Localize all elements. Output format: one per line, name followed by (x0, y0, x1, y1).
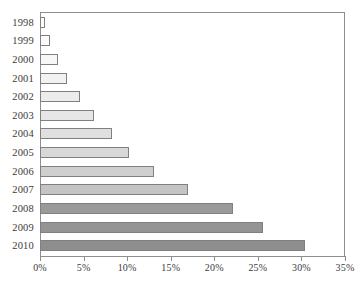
bar-1998 (40, 17, 45, 28)
x-axis-tick-label: 20% (205, 262, 224, 273)
y-axis-tick-label: 2000 (0, 50, 37, 69)
bar-row (40, 218, 345, 237)
y-axis-tick-label: 2009 (0, 218, 37, 237)
bar-2000 (40, 54, 58, 65)
y-axis-tick-label: 2004 (0, 125, 37, 144)
y-axis-tick-label: 2010 (0, 236, 37, 255)
tick-mark (84, 256, 85, 261)
bar-2003 (40, 110, 94, 121)
bar-row (40, 50, 345, 69)
y-axis-tick-label: 2001 (0, 69, 37, 88)
y-axis-tick-label: 2003 (0, 106, 37, 125)
x-axis-tick-label: 0% (33, 262, 47, 273)
x-axis-tick-label: 5% (77, 262, 91, 273)
tick-mark (127, 256, 128, 261)
tick-mark (345, 256, 346, 261)
bar-2010 (40, 240, 305, 251)
y-axis-tick-label: 1998 (0, 13, 37, 32)
bar-2002 (40, 91, 80, 102)
bar-row (40, 69, 345, 88)
x-axis-tick-label: 35% (336, 262, 355, 273)
bar-row (40, 32, 345, 51)
y-axis-tick-label: 1999 (0, 32, 37, 51)
bar-row (40, 106, 345, 125)
bar-row (40, 199, 345, 218)
bars-container (40, 13, 345, 255)
bar-2009 (40, 222, 263, 233)
y-axis-tick-label: 2005 (0, 143, 37, 162)
x-axis-tick-label: 15% (161, 262, 180, 273)
y-axis-category-labels: 1998199920002001200220032004200520062007… (0, 13, 37, 255)
tick-mark (301, 256, 302, 261)
bar-row (40, 87, 345, 106)
bar-2007 (40, 184, 188, 195)
x-axis-tick-label: 10% (118, 262, 137, 273)
tick-mark (258, 256, 259, 261)
tick-mark (171, 256, 172, 261)
bar-2008 (40, 203, 233, 214)
bar-row (40, 125, 345, 144)
y-axis-tick-label: 2002 (0, 87, 37, 106)
bar-2005 (40, 147, 129, 158)
bar-row (40, 236, 345, 255)
x-axis-tick-label: 30% (292, 262, 311, 273)
y-axis-tick-label: 2008 (0, 199, 37, 218)
y-axis-tick-label: 2007 (0, 180, 37, 199)
bar-1999 (40, 35, 50, 46)
bar-chart: 1998199920002001200220032004200520062007… (0, 0, 360, 291)
bar-2006 (40, 166, 154, 177)
bar-row (40, 143, 345, 162)
bar-row (40, 180, 345, 199)
x-axis-ticks: 0%5%10%15%20%25%30%35% (0, 256, 360, 286)
bar-row (40, 13, 345, 32)
y-axis-tick-label: 2006 (0, 162, 37, 181)
bar-row (40, 162, 345, 181)
bar-2001 (40, 73, 67, 84)
bar-2004 (40, 128, 112, 139)
tick-mark (40, 256, 41, 261)
x-axis-tick-label: 25% (248, 262, 267, 273)
tick-mark (214, 256, 215, 261)
